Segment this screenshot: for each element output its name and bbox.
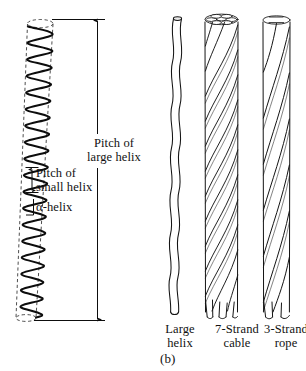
cable-cross-section-top <box>205 14 238 25</box>
figure-coiled-coil-and-ropes: Pitch of large helix Pitch of small heli… <box>0 0 306 371</box>
label-alpha-helix: α-helix <box>36 200 72 214</box>
seven-strand-line-1: 7-Strand <box>215 322 259 336</box>
rope-strand-lines <box>263 24 289 313</box>
pitch-small-line-1: Pitch of <box>36 166 76 180</box>
three-strand-line-1: 3-Strand <box>264 322 306 336</box>
label-seven-strand-cable: 7-Strand cable <box>206 322 268 350</box>
rope-cross-section-top <box>263 16 290 24</box>
cable-strand-lines-secondary <box>205 32 237 303</box>
seven-strand-line-2: cable <box>224 336 251 350</box>
pitch-small-line-2: small helix <box>36 180 92 194</box>
pitch-large-line-2: large helix <box>87 150 141 164</box>
cable-bottom-ends <box>206 300 238 319</box>
seven-strand-cable <box>205 14 238 319</box>
rope-strand-lines-secondary <box>263 38 289 311</box>
pitch-large-line-1: Pitch of <box>94 136 134 150</box>
large-helix-line-2: helix <box>167 336 193 350</box>
three-strand-rope <box>263 16 290 319</box>
label-pitch-of-large-helix: Pitch of large helix <box>74 136 154 164</box>
three-strand-line-2: rope <box>275 336 298 350</box>
label-pitch-of-small-helix: Pitch of small helix <box>36 166 122 194</box>
figure-panel-caption: (b) <box>160 352 175 367</box>
large-helix-line-1: Large <box>165 322 194 336</box>
label-three-strand-rope: 3-Strand rope <box>262 322 306 350</box>
large-helix-strand <box>169 17 182 315</box>
label-large-helix: Large helix <box>152 322 208 350</box>
